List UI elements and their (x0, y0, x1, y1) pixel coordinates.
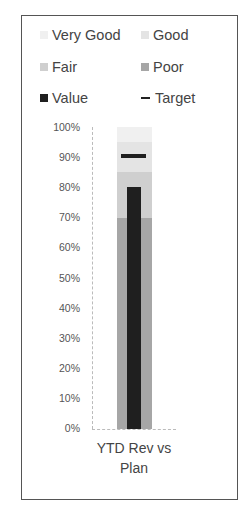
y-tick-label: 50% (44, 272, 80, 284)
y-tick-label: 10% (44, 392, 80, 404)
legend-item-target: Target (141, 90, 195, 106)
good-swatch-icon (141, 31, 149, 39)
y-tick-label: 30% (44, 332, 80, 344)
fair-swatch-icon (40, 63, 48, 71)
y-tick-label: 80% (44, 181, 80, 193)
value-swatch-icon (40, 94, 48, 102)
target-line-icon (141, 97, 150, 99)
target-marker (121, 154, 146, 158)
y-tick-label: 90% (44, 151, 80, 163)
y-axis-line (92, 127, 93, 429)
very-good-swatch-icon (40, 31, 48, 39)
legend-item-value: Value (40, 90, 88, 106)
legend-label: Very Good (52, 27, 121, 43)
legend-item-poor: Poor (141, 59, 184, 75)
legend-item-fair: Fair (40, 59, 77, 75)
legend-label: Fair (52, 59, 77, 75)
y-tick-label: 100% (44, 121, 80, 133)
poor-swatch-icon (141, 63, 149, 71)
legend-item-very-good: Very Good (40, 27, 121, 43)
y-tick-label: 40% (44, 302, 80, 314)
legend-item-good: Good (141, 27, 188, 43)
legend-label: Target (155, 90, 195, 106)
y-tick-label: 20% (44, 362, 80, 374)
y-tick-label: 60% (44, 241, 80, 253)
value-bar (127, 187, 141, 429)
band-very-good (117, 127, 152, 142)
legend-label: Good (153, 27, 188, 43)
y-tick-label: 0% (44, 422, 80, 434)
legend-label: Value (52, 90, 88, 106)
legend-label: Poor (153, 59, 184, 75)
x-axis-line (92, 429, 176, 430)
x-category-label: YTD Rev vs Plan (94, 438, 174, 478)
y-tick-label: 70% (44, 211, 80, 223)
